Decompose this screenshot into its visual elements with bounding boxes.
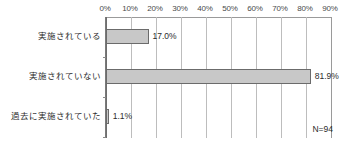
bar-row: 1.1% <box>106 97 330 137</box>
x-tick-label: 40% <box>197 4 212 14</box>
x-tick-label: 20% <box>147 4 162 14</box>
bar-not-implemented <box>106 69 311 84</box>
x-tick-label: 30% <box>172 4 187 14</box>
x-tick-label: 10% <box>122 4 137 14</box>
bar-row: 17.0% <box>106 17 330 57</box>
sample-size-annotation: N=94 <box>312 124 333 134</box>
x-axis-tick-labels: 0% 10% 20% 30% 40% 50% 60% 70% 80% 90% <box>0 4 347 15</box>
x-tick-label: 0% <box>99 4 110 14</box>
x-tick-label: 80% <box>297 4 312 14</box>
category-label: 過去に実施されていた <box>0 109 101 124</box>
bar-previously-implemented <box>106 109 109 124</box>
bar-row: 81.9% <box>106 57 330 97</box>
x-tick-label: 70% <box>272 4 287 14</box>
x-tick-label: 90% <box>322 4 337 14</box>
horizontal-bar-chart: 0% 10% 20% 30% 40% 50% 60% 70% 80% 90% 実… <box>0 0 347 150</box>
bar-implemented <box>106 29 149 44</box>
x-tick-label: 60% <box>247 4 262 14</box>
category-label: 実施されていない <box>0 69 101 84</box>
bar-value-label: 81.9% <box>315 69 339 84</box>
x-tick-label: 50% <box>222 4 237 14</box>
y-axis-tick <box>103 137 106 138</box>
bar-value-label: 1.1% <box>113 109 132 124</box>
plot-area: 17.0% 81.9% 1.1% <box>105 17 330 138</box>
bar-value-label: 17.0% <box>153 29 177 44</box>
category-label: 実施されている <box>0 29 101 44</box>
